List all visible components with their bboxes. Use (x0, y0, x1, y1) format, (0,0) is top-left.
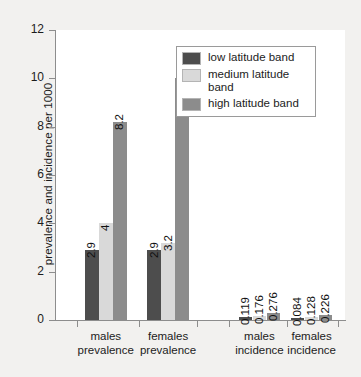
y-axis-tick-label: 0 (2, 312, 44, 326)
bar[interactable] (99, 223, 113, 320)
bar-value-label: 3.2 (162, 235, 174, 251)
bar-value-label: 0.128 (305, 296, 317, 325)
y-axis-tick-mark (49, 320, 55, 321)
y-axis-tick-label: 4 (2, 215, 44, 229)
x-axis-group-label: femalesprevalence (123, 330, 213, 357)
legend-swatch-icon (182, 98, 201, 111)
y-axis-spine (55, 30, 56, 321)
y-axis-tick-mark (49, 127, 55, 128)
bar-value-label: 0.084 (291, 297, 303, 326)
y-axis-tick-label: 10 (2, 70, 44, 84)
x-axis-group-label-line: females (267, 330, 357, 344)
y-axis-tick-mark (49, 272, 55, 273)
bar-value-label: 0.276 (267, 293, 279, 322)
legend-item-label: low latitude band (208, 51, 294, 64)
bar-value-label: 4 (99, 225, 111, 231)
y-axis-tick-label: 8 (2, 119, 44, 133)
legend-item[interactable]: medium latitude band (182, 68, 311, 94)
legend-item[interactable]: high latitude band (182, 97, 311, 111)
bar-chart-figure: prevalence and incidence per 1000 024681… (0, 0, 361, 377)
y-axis-tick-label: 2 (2, 264, 44, 278)
y-axis-tick-mark (49, 78, 55, 79)
x-axis-tick-mark (229, 321, 230, 327)
x-axis-group-label-line: incidence (267, 344, 357, 358)
bar-value-label: 0.119 (239, 297, 251, 325)
bar-value-label: 0.176 (253, 295, 265, 324)
y-axis-tick-label: 12 (2, 22, 44, 36)
bar-value-label: 8.2 (113, 114, 125, 130)
x-axis-tick-mark (197, 321, 198, 327)
bar-value-label: 2.9 (85, 242, 97, 258)
chart-legend: low latitude bandmedium latitude bandhig… (176, 46, 316, 117)
x-axis-group-label: femalesincidence (267, 330, 357, 357)
bar[interactable] (113, 122, 127, 320)
bar[interactable] (161, 243, 175, 320)
y-axis-tick-mark (49, 175, 55, 176)
y-axis-tick-label: 6 (2, 167, 44, 181)
y-axis-tick-mark (49, 223, 55, 224)
legend-item[interactable]: low latitude band (182, 51, 311, 65)
x-axis-group-label-line: females (123, 330, 213, 344)
bar[interactable] (85, 250, 99, 320)
legend-item-label: medium latitude band (208, 68, 311, 94)
legend-item-label: high latitude band (208, 97, 299, 110)
legend-swatch-icon (182, 69, 201, 82)
x-axis-group-label-line: prevalence (123, 344, 213, 358)
y-axis-tick-mark (49, 30, 55, 31)
bar-value-label: 2.9 (148, 242, 160, 258)
x-axis-tick-mark (77, 321, 78, 327)
x-axis-tick-mark (139, 321, 140, 327)
legend-swatch-icon (182, 52, 201, 65)
x-axis-tick-mark (338, 321, 339, 327)
bar[interactable] (147, 250, 161, 320)
x-axis-tick-mark (287, 321, 288, 327)
bar-value-label: 0.226 (319, 294, 331, 323)
